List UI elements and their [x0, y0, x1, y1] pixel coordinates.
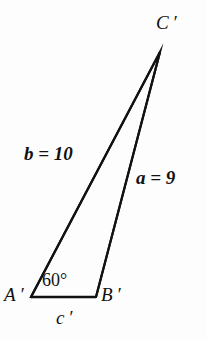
side-label-b: b = 10 [24, 144, 73, 163]
side-label-a: a = 9 [136, 168, 175, 187]
side-label-c-prime: c ′ [56, 308, 72, 327]
vertex-label-c-prime: C ′ [156, 13, 177, 32]
vertex-label-a-prime: A ′ [4, 285, 24, 304]
angle-label-60-degrees: 60° [42, 271, 67, 289]
geometry-figure: C ′ b = 10 a = 9 60° A ′ B ′ c ′ [0, 0, 207, 341]
vertex-label-b-prime: B ′ [101, 285, 121, 304]
